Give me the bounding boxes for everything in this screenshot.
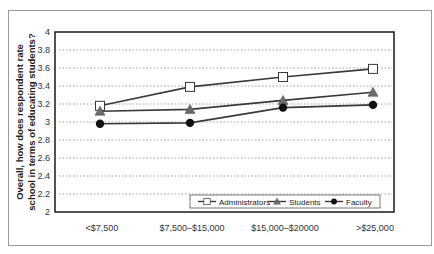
series-line (100, 69, 373, 106)
y-tick-label: 2.8 (37, 135, 50, 145)
square-marker-icon (369, 64, 378, 73)
y-tick-label: 2.4 (37, 171, 50, 181)
circle-marker-icon (279, 103, 287, 111)
x-category-label: $15,000–$20000 (251, 223, 319, 233)
y-axis-label-line2: school in terms of educating students? (26, 33, 37, 211)
y-tick-label: 2.2 (37, 189, 50, 199)
square-marker-icon (186, 82, 195, 91)
legend-label: Faculty (346, 198, 372, 207)
circle-marker-icon (331, 199, 337, 205)
square-marker-icon (204, 198, 210, 204)
y-tick-label: 3.8 (37, 45, 50, 55)
legend-label: Administrators (219, 198, 270, 207)
y-tick-label: 4 (45, 27, 50, 37)
x-category-label: $7,500–$15,000 (159, 223, 224, 233)
y-tick-label: 2 (45, 207, 50, 217)
y-tick-label: 3 (45, 117, 50, 127)
y-tick-label: 3.6 (37, 63, 50, 73)
series-line (100, 105, 373, 124)
series-administrators (96, 64, 378, 110)
y-axis-label-line1: Overall, how does respondent rate (14, 44, 25, 200)
y-axis-ticks: 22.22.42.62.833.23.43.63.84 (37, 27, 50, 217)
series-lines (95, 64, 378, 128)
square-marker-icon (279, 73, 288, 82)
legend-label: Students (289, 198, 321, 207)
x-category-label: >$25,000 (356, 223, 394, 233)
triangle-marker-icon (368, 87, 378, 96)
x-axis-categories: <$7,500$7,500–$15,000$15,000–$20000>$25,… (86, 223, 394, 233)
circle-marker-icon (186, 119, 194, 127)
circle-marker-icon (96, 120, 104, 128)
y-axis-label: Overall, how does respondent rate school… (14, 33, 37, 211)
legend: AdministratorsStudentsFaculty (190, 195, 380, 208)
y-tick-label: 3.2 (37, 99, 50, 109)
y-tick-label: 3.4 (37, 81, 50, 91)
x-category-label: <$7,500 (86, 223, 119, 233)
series-line (100, 92, 373, 111)
line-chart: 22.22.42.62.833.23.43.63.84 <$7,500$7,50… (0, 0, 434, 254)
y-tick-label: 2.6 (37, 153, 50, 163)
circle-marker-icon (369, 101, 377, 109)
series-students (95, 87, 378, 115)
